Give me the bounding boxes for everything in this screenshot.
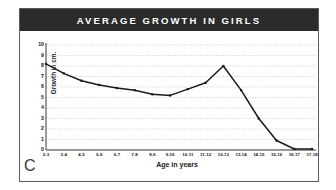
- chart-canvas: [20, 31, 318, 181]
- page-title: AVERAGE GROWTH IN GIRLS: [77, 15, 261, 26]
- chart-title-bar: AVERAGE GROWTH IN GIRLS: [20, 9, 318, 31]
- data-point: [205, 82, 207, 84]
- data-point: [63, 72, 65, 74]
- data-point: [151, 93, 153, 95]
- data-point: [169, 94, 171, 96]
- data-point: [116, 87, 118, 89]
- chart-figure: AVERAGE GROWTH IN GIRLS Growth in cm. Ag…: [19, 8, 319, 182]
- data-point: [45, 63, 47, 65]
- gridlines: [46, 45, 316, 150]
- data-point: [240, 89, 242, 91]
- plot-area: Growth in cm. Age in years C 01234567891…: [20, 31, 318, 181]
- data-point: [275, 139, 277, 141]
- data-point: [98, 84, 100, 86]
- data-point: [311, 148, 313, 150]
- data-point: [258, 117, 260, 119]
- data-point: [222, 65, 224, 67]
- data-point: [80, 80, 82, 82]
- data-point: [187, 88, 189, 90]
- data-point: [134, 89, 136, 91]
- data-point: [293, 148, 295, 150]
- axis-lines: [46, 43, 316, 150]
